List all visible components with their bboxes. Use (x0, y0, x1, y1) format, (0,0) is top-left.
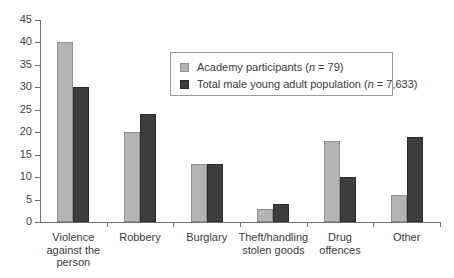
y-axis-tick-label: 40 (6, 36, 32, 47)
y-axis-tick (35, 155, 40, 156)
x-axis-tick (373, 222, 374, 227)
y-axis-tick-label: 10 (6, 171, 32, 182)
bar (340, 177, 356, 222)
y-axis-tick-label: 20 (6, 126, 32, 137)
bar (324, 141, 340, 222)
y-axis-tick (35, 132, 40, 133)
legend: Academy participants (n = 79) Total male… (170, 52, 393, 96)
y-axis-tick (35, 200, 40, 201)
y-axis-tick (35, 20, 40, 21)
bar (273, 204, 289, 222)
bar (207, 164, 223, 222)
y-axis-tick (35, 222, 40, 223)
bar (73, 87, 89, 222)
bar (257, 209, 273, 222)
bar (391, 195, 407, 222)
legend-item-total-male-young-adult-population: Total male young adult population (n = 7… (180, 78, 417, 90)
bar (407, 137, 423, 222)
y-axis-tick (35, 65, 40, 66)
x-axis-tick (307, 222, 308, 227)
x-axis-category-label: Other (367, 231, 446, 244)
y-axis-tick-label: 35 (6, 59, 32, 70)
x-axis-tick (107, 222, 108, 227)
y-axis-tick-label: 0 (6, 216, 32, 227)
y-axis-line (40, 20, 41, 222)
y-axis-tick-label: 25 (6, 104, 32, 115)
bar (191, 164, 207, 222)
legend-swatch-icon-dark (180, 80, 189, 89)
bar (57, 42, 73, 222)
y-axis-tick-label: 45 (6, 14, 32, 25)
x-axis-tick (440, 222, 441, 227)
legend-swatch-icon-light (180, 63, 189, 72)
y-axis-tick (35, 42, 40, 43)
y-axis-tick (35, 110, 40, 111)
bar-chart: 051015202530354045 Violence against the … (0, 0, 454, 278)
y-axis-tick (35, 87, 40, 88)
x-axis-tick (173, 222, 174, 227)
legend-label-total-male-young-adult-population: Total male young adult population (n = 7… (197, 79, 417, 90)
y-axis-tick (35, 177, 40, 178)
y-axis-tick-label: 15 (6, 149, 32, 160)
legend-item-academy-participants: Academy participants (n = 79) (180, 61, 343, 73)
y-axis-tick-label: 5 (6, 194, 32, 205)
bar (140, 114, 156, 222)
x-axis-tick (240, 222, 241, 227)
bar (124, 132, 140, 222)
y-axis-tick-label: 30 (6, 81, 32, 92)
legend-label-academy-participants: Academy participants (n = 79) (197, 62, 343, 73)
